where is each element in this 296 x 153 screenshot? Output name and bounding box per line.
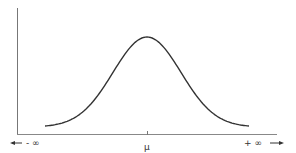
positive-infinity-label-group: + ∞ [244,138,284,148]
right-arrow-icon [279,141,284,145]
normal-distribution-chart: - ∞ μ + ∞ [0,0,296,153]
mu-label: μ [144,142,150,152]
left-arrow-icon [10,141,15,145]
positive-infinity-label: + ∞ [244,138,262,148]
negative-infinity-label-group: - ∞ [10,138,40,148]
bell-curve [45,37,249,126]
negative-infinity-label: - ∞ [26,138,40,148]
